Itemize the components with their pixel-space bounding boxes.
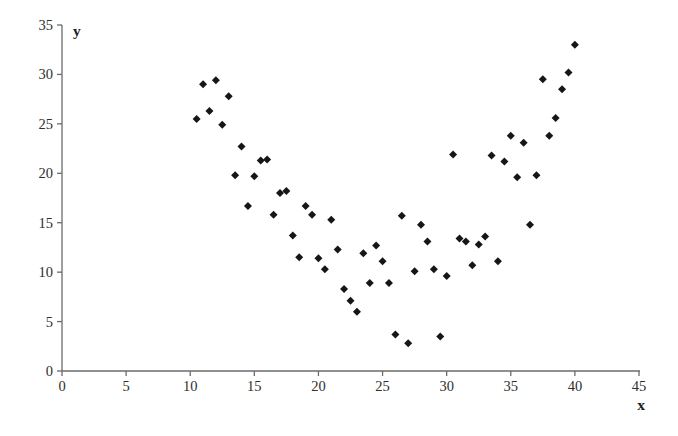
x-tick-label: 35 — [504, 378, 519, 394]
data-point — [443, 272, 451, 280]
data-point — [411, 267, 419, 275]
axis-ticks — [57, 25, 639, 376]
x-tick-label: 0 — [58, 378, 65, 394]
data-point — [423, 237, 431, 245]
x-tick-label: 5 — [122, 378, 129, 394]
data-point — [507, 132, 515, 140]
data-point — [302, 202, 310, 210]
data-point — [552, 114, 560, 122]
x-tick-label: 10 — [183, 378, 198, 394]
data-point — [193, 115, 201, 123]
data-point — [372, 241, 380, 249]
data-point — [398, 212, 406, 220]
x-tick-label: 30 — [439, 378, 454, 394]
data-point — [270, 211, 278, 219]
data-point — [359, 249, 367, 257]
data-point — [391, 330, 399, 338]
data-point — [366, 279, 374, 287]
data-point — [526, 221, 534, 229]
y-tick-label: 10 — [39, 264, 54, 280]
data-point — [295, 253, 303, 261]
scatter-chart-figure: 05101520253035404505101520253035 y x — [0, 0, 678, 436]
x-tick-label: 25 — [375, 378, 390, 394]
data-point — [225, 92, 233, 100]
data-point — [321, 265, 329, 273]
data-point — [430, 265, 438, 273]
x-tick-label: 20 — [311, 378, 326, 394]
data-point — [571, 41, 579, 49]
data-point — [334, 245, 342, 253]
y-tick-label: 35 — [39, 17, 54, 33]
y-axis-title: y — [73, 22, 81, 39]
data-point — [205, 107, 213, 115]
data-point — [494, 257, 502, 265]
data-point — [545, 132, 553, 140]
data-point — [404, 339, 412, 347]
data-point — [481, 233, 489, 241]
y-tick-label: 15 — [39, 215, 54, 231]
data-point — [353, 308, 361, 316]
axis-tick-labels: 05101520253035404505101520253035 — [39, 17, 647, 394]
data-point — [558, 85, 566, 93]
y-tick-label: 30 — [39, 66, 54, 82]
data-point — [379, 257, 387, 265]
data-point — [250, 172, 258, 180]
data-point — [436, 332, 444, 340]
data-point — [520, 139, 528, 147]
axes — [62, 25, 640, 371]
data-point — [475, 240, 483, 248]
data-point — [500, 157, 508, 165]
data-point — [289, 232, 297, 240]
x-tick-label: 15 — [247, 378, 262, 394]
data-point — [340, 285, 348, 293]
data-point — [385, 279, 393, 287]
data-point — [532, 171, 540, 179]
y-tick-label: 0 — [46, 363, 53, 379]
data-point — [513, 173, 521, 181]
data-point — [539, 75, 547, 83]
y-tick-label: 5 — [46, 314, 53, 330]
data-point — [347, 297, 355, 305]
y-tick-label: 20 — [39, 165, 54, 181]
x-tick-label: 45 — [632, 378, 647, 394]
data-point — [212, 76, 220, 84]
data-point — [417, 221, 425, 229]
data-points — [193, 41, 579, 348]
data-point — [238, 143, 246, 151]
data-point — [231, 171, 239, 179]
scatter-plot: 05101520253035404505101520253035 y x — [0, 0, 678, 436]
data-point — [257, 156, 265, 164]
x-tick-label: 40 — [568, 378, 583, 394]
data-point — [314, 254, 322, 262]
data-point — [276, 189, 284, 197]
data-point — [468, 261, 476, 269]
data-point — [282, 187, 290, 195]
data-point — [199, 80, 207, 88]
x-axis-title: x — [637, 396, 645, 413]
data-point — [564, 68, 572, 76]
data-point — [449, 151, 457, 159]
data-point — [488, 151, 496, 159]
data-point — [263, 155, 271, 163]
data-point — [218, 121, 226, 129]
data-point — [244, 202, 252, 210]
data-point — [308, 211, 316, 219]
y-tick-label: 25 — [39, 116, 54, 132]
data-point — [327, 216, 335, 224]
